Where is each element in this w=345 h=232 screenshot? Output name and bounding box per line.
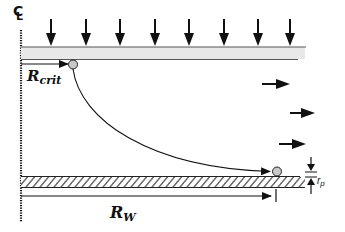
r-w-label: RW xyxy=(110,203,136,224)
right-arrow-icon xyxy=(290,108,315,118)
particle-bottom xyxy=(273,167,282,176)
down-arrow-icon xyxy=(46,19,56,46)
r-p-dimension xyxy=(305,157,317,194)
rightward-flow-arrows xyxy=(262,79,315,149)
down-arrow-icon xyxy=(219,19,229,46)
centerline-symbol: CL xyxy=(13,4,23,18)
down-arrow-icon xyxy=(81,19,91,46)
right-arrow-icon xyxy=(279,139,306,149)
right-arrow-icon xyxy=(262,79,290,89)
downward-flow-arrows xyxy=(46,19,295,46)
top-plate xyxy=(21,47,306,60)
down-arrow-icon xyxy=(253,19,263,46)
particle-top xyxy=(69,60,78,69)
particle-trajectory-diagram: CL Rcrit RW rp xyxy=(0,0,345,232)
r-p-label: rp xyxy=(317,175,325,188)
r-w-dimension-arrow xyxy=(21,189,276,202)
r-crit-label: Rcrit xyxy=(27,67,61,87)
bottom-wall xyxy=(21,177,305,188)
down-arrow-icon xyxy=(150,19,160,46)
down-arrow-icon xyxy=(285,19,295,46)
particle-trajectory xyxy=(73,69,270,172)
down-arrow-icon xyxy=(184,19,194,46)
diagram-canvas xyxy=(0,0,345,232)
down-arrow-icon xyxy=(115,19,125,46)
